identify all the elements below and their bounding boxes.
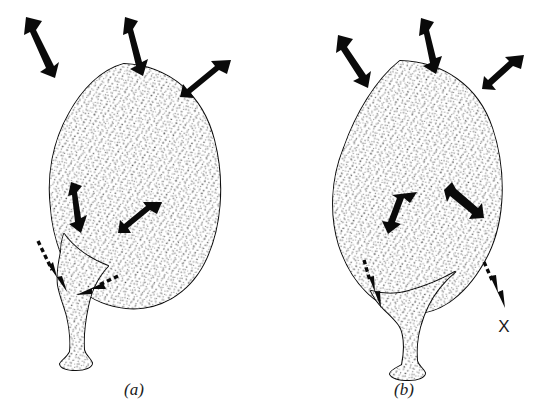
caption-panel-a: (a): [124, 380, 144, 399]
x-mark-annotation: X: [498, 317, 509, 336]
caption-panel-b: (b): [394, 380, 414, 399]
figure-root: (a): [0, 0, 537, 417]
anatomical-diagram: (a): [0, 0, 537, 417]
